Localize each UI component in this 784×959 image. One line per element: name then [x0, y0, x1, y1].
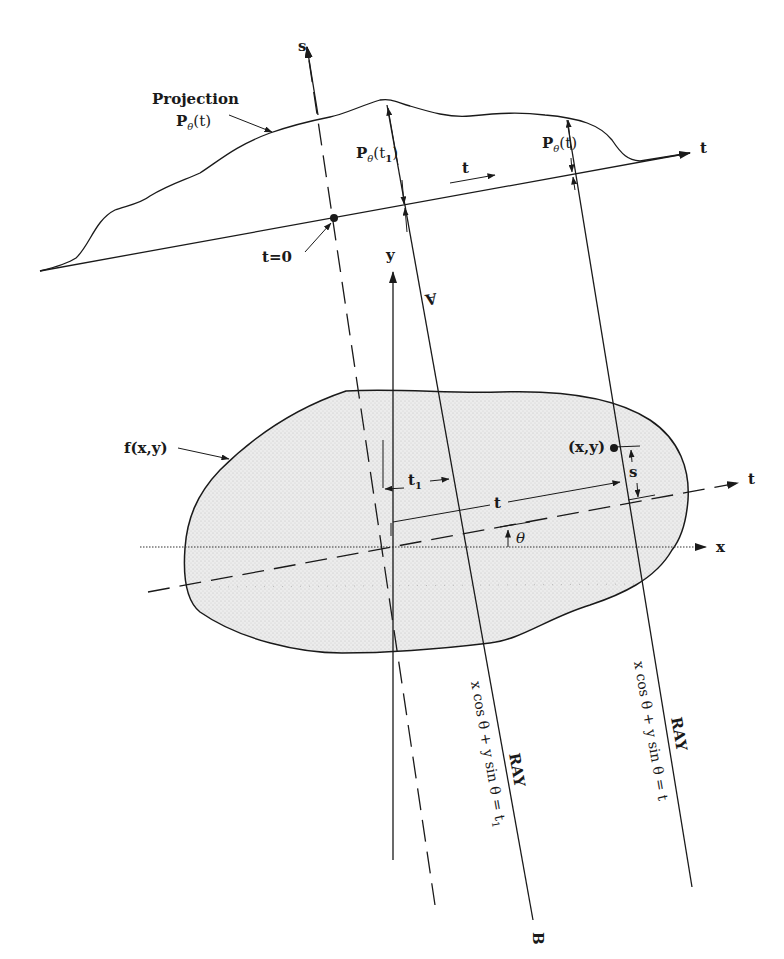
- p-t-label: Pθ(t): [542, 134, 577, 154]
- t-distance-label: t: [494, 494, 501, 512]
- projection-t-axis: [40, 153, 690, 271]
- point-xy: [610, 444, 618, 452]
- ray-end-b-label: B: [529, 932, 547, 945]
- svg-text:Pθ(t): Pθ(t): [176, 112, 211, 132]
- projection-geometry-diagram: x y t s t t=0 Projection Pθ(t) t Pθ(t1) …: [0, 0, 784, 959]
- projection-t-axis-label: t: [700, 139, 707, 157]
- point-xy-label: (x,y): [568, 438, 605, 456]
- s-distance-label: s: [629, 463, 637, 481]
- t-zero-pointer: [305, 223, 331, 252]
- svg-text:Projection: Projection: [152, 90, 239, 108]
- t-zero-label: t=0: [262, 248, 292, 266]
- theta-label: θ: [516, 529, 525, 547]
- projection-pointer: [229, 115, 272, 132]
- t-direction-arrow: [450, 175, 495, 183]
- ray-end-a-label: A: [423, 289, 439, 309]
- object-pointer: [178, 448, 229, 459]
- ray-t1-label: RAY x cos θ + y sin θ = t1: [465, 680, 529, 829]
- y-axis-label: y: [385, 246, 396, 264]
- t-zero-point: [330, 214, 338, 222]
- s-axis-label: s: [298, 37, 306, 55]
- x-axis-label: x: [716, 538, 726, 556]
- svg-text:x cos θ + y sin θ = t: x cos θ + y sin θ = t: [631, 660, 671, 802]
- p-t1-label: Pθ(t1): [356, 144, 398, 164]
- projection-curve: [40, 100, 690, 271]
- object-region: [184, 390, 688, 653]
- svg-text:RAY: RAY: [667, 716, 691, 753]
- t-direction-label: t: [462, 159, 469, 177]
- rotated-t-axis-label: t: [748, 470, 755, 488]
- object-label: f(x,y): [124, 439, 168, 457]
- object-outline: [184, 390, 688, 653]
- projection-label: Projection Pθ(t): [152, 90, 239, 132]
- ray-t-label: RAY x cos θ + y sin θ = t: [631, 660, 691, 802]
